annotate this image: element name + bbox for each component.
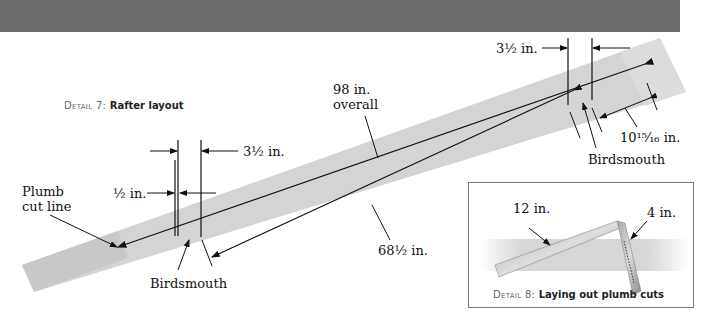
overall-label: 98 in.overall <box>333 82 378 112</box>
run-length-label: 68½ in. <box>378 243 428 258</box>
detail7-caption: Detail 7: Rafter layout <box>64 100 184 111</box>
half-inch-label: ½ in. <box>113 186 146 201</box>
top-seat-right-label: 3½ in. <box>496 41 538 56</box>
tongue-label: 4 in. <box>647 205 676 220</box>
birdsmouth-right-label: Birdsmouth <box>588 152 665 167</box>
birdsmouth-left-label: Birdsmouth <box>150 276 227 291</box>
tail-length-label: 10¹⁵⁄₁₆ in. <box>620 130 680 145</box>
top-seat-left-label: 3½ in. <box>243 144 285 159</box>
plumb-cut-label: Plumbcut line <box>22 184 71 214</box>
detail8-panel: 12 in. 4 in. Detail 8: Laying out plumb … <box>468 182 694 308</box>
rafter-diagram-page: Detail 7: Rafter layout 98 in.overall 3½… <box>0 0 701 312</box>
detail8-caption: Detail 8: Laying out plumb cuts <box>493 289 664 300</box>
blade-label: 12 in. <box>513 201 550 216</box>
